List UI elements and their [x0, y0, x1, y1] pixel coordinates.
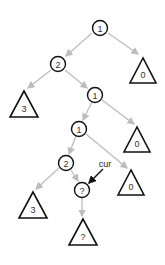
edge-n1-n2	[66, 33, 92, 56]
tree-diagram: 1 2 0 3 1 1 0 2 0 ? 3 ? cur	[0, 0, 165, 265]
edge-n1-t0a	[108, 33, 138, 54]
edge-n2-t3a	[28, 70, 51, 88]
tree-svg: 1 2 0 3 1 1 0 2 0 ? 3 ? cur	[0, 0, 165, 265]
edge-n2-n3	[65, 70, 87, 88]
edge-n4-n5	[69, 136, 76, 154]
node-n3-label: 1	[92, 91, 97, 101]
subtree-t0c-label: 0	[128, 182, 133, 192]
subtree-t3a-label: 3	[21, 104, 26, 114]
subtree-t4-label: ?	[80, 232, 85, 242]
edge-n5-t3b	[36, 168, 59, 189]
cur-pointer-label: cur	[99, 159, 112, 169]
node-n1-label: 1	[97, 24, 102, 34]
edge-n3-t0b	[102, 100, 134, 124]
node-n2-label: 2	[55, 60, 60, 70]
node-n4-label: 1	[76, 125, 81, 135]
edge-n3-n4	[83, 102, 92, 120]
subtree-t0a-label: 0	[140, 70, 145, 80]
edge-n5-n6	[71, 170, 78, 181]
cur-pointer-arrow	[89, 169, 103, 183]
subtree-t3b-label: 3	[30, 205, 35, 215]
subtree-t0b-label: 0	[134, 139, 139, 149]
node-n6-label: ?	[79, 186, 84, 196]
node-n5-label: 2	[63, 159, 68, 169]
